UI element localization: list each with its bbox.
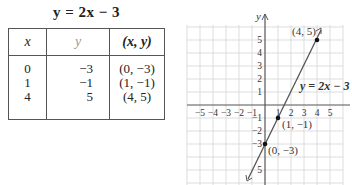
svg-text:3: 3: [302, 108, 307, 118]
svg-text:3: 3: [257, 61, 262, 71]
svg-text:−2: −2: [234, 108, 244, 118]
point-label-1-neg1: (1, −1): [282, 118, 312, 131]
svg-text:5: 5: [328, 108, 333, 118]
svg-text:4: 4: [257, 48, 262, 58]
svg-text:2: 2: [289, 108, 294, 118]
svg-text:−4: −4: [208, 108, 218, 118]
svg-text:2: 2: [257, 74, 262, 84]
point-label-0-neg3: (0, −3): [268, 144, 298, 157]
svg-text:−3: −3: [221, 108, 231, 118]
svg-text:−2: −2: [252, 126, 262, 136]
svg-text:5: 5: [257, 35, 262, 45]
svg-text:−5: −5: [195, 108, 205, 118]
y-axis-label: y: [255, 10, 261, 22]
coordinate-graph: y −5 −4 −3 −2 −1 1 2 3 4 5 5 4 3 2 1 −1 …: [0, 0, 352, 185]
svg-text:4: 4: [315, 108, 320, 118]
svg-text:1: 1: [257, 87, 262, 97]
svg-text:−3: −3: [252, 139, 262, 149]
point-0-neg3: [263, 142, 268, 147]
point-4-5: [315, 38, 320, 43]
line-equation-label: y = 2x − 3: [298, 79, 349, 93]
point-label-4-5: (4, 5): [292, 25, 316, 38]
svg-text:−1: −1: [252, 113, 262, 123]
point-1-neg1: [276, 116, 281, 121]
x-tick-labels: −5 −4 −3 −2 −1 1 2 3 4 5: [195, 108, 333, 118]
svg-text:5: 5: [257, 165, 262, 175]
